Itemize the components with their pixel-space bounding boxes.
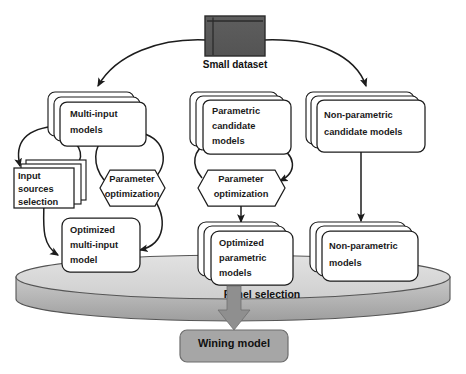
edge-dataset-to-multiinput <box>98 40 206 86</box>
dataset-icon <box>205 16 265 56</box>
nonparametric-candidate-models-node[interactable]: Non-parametric candidate models <box>306 92 425 152</box>
small-dataset-node: Small dataset <box>203 16 268 70</box>
edge-dataset-to-nonparam <box>264 40 366 86</box>
winning-model-label: Wining model <box>198 337 270 349</box>
opt-param-line-3: models <box>219 268 252 278</box>
stack-sheet-1 <box>317 100 425 152</box>
stack-sheet-1 <box>322 231 418 281</box>
optimized-parametric-models-node[interactable]: Optimized parametric models <box>198 222 293 285</box>
param-opt-left-line-2: optimization <box>105 189 160 199</box>
input-sources-line-1: Input <box>18 171 41 181</box>
parametric-candidate-line-3: models <box>212 136 245 146</box>
input-sources-selection-node[interactable]: Input sources selection <box>14 160 86 208</box>
workflow-svg: Small dataset Multi-input models Paramet… <box>0 0 466 374</box>
opt-param-line-1: Optimized <box>219 238 264 248</box>
opt-param-line-2: parametric <box>219 253 267 263</box>
param-opt-mid-line-1: Parameter <box>218 174 264 184</box>
multi-input-models-line-1: Multi-input <box>70 109 118 119</box>
nonparametric-candidate-line-1: Non-parametric <box>324 110 393 120</box>
diagram-canvas: Small dataset Multi-input models Paramet… <box>0 0 466 374</box>
multi-input-models-node[interactable]: Multi-input models <box>48 92 146 146</box>
param-opt-mid-line-2: optimization <box>214 189 269 199</box>
opt-multi-line-1: Optimized <box>70 225 115 235</box>
nonparametric-candidate-line-2: candidate models <box>324 127 403 137</box>
nonparam-models-line-2: models <box>329 258 362 268</box>
winning-model-node[interactable]: Wining model <box>180 330 288 362</box>
nonparametric-models-node[interactable]: Non-parametric models <box>310 222 418 281</box>
opt-multi-line-2: multi-input <box>70 240 118 250</box>
small-dataset-label: Small dataset <box>203 59 268 70</box>
input-sources-line-3: selection <box>18 197 59 207</box>
parametric-candidate-line-1: Parametric <box>212 106 260 116</box>
parameter-optimization-left-node[interactable]: Parameter optimization <box>100 170 165 206</box>
input-sources-line-2: sources <box>18 184 54 194</box>
parametric-candidate-models-node[interactable]: Parametric candidate models <box>190 92 291 154</box>
opt-multi-line-3: model <box>70 255 97 265</box>
parameter-optimization-mid-node[interactable]: Parameter optimization <box>198 170 285 206</box>
optimized-multi-input-model-node[interactable]: Optimized multi-input model <box>62 218 140 272</box>
parametric-candidate-line-2: candidate <box>212 121 255 131</box>
multi-input-models-line-2: models <box>70 125 103 135</box>
param-opt-left-line-1: Parameter <box>109 174 155 184</box>
nonparam-models-line-1: Non-parametric <box>329 241 398 251</box>
